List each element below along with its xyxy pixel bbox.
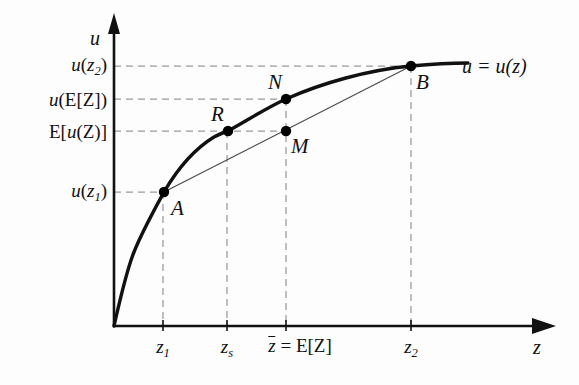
x-tick-label-zs: zs — [221, 337, 233, 359]
y-tick-label-u-EZ: u(E[Z]) — [0, 90, 107, 109]
curve-equation-label: u = u(z) — [462, 56, 527, 76]
y-tick-label-u-z2: u(z2) — [0, 55, 107, 77]
point-M — [281, 126, 291, 136]
point-label-B: B — [416, 72, 429, 93]
x-tick-label-z1: z1 — [156, 337, 170, 359]
point-label-N: N — [268, 72, 282, 93]
point-label-M: M — [291, 136, 309, 157]
y-tick-label-u-z1: u(z1) — [0, 181, 107, 203]
point-B — [406, 61, 416, 71]
utility-function-figure: u z u(z2) u(E[Z]) E[u(Z)] u(z1) z1 zs z … — [0, 0, 579, 385]
point-label-R: R — [211, 104, 224, 125]
x-axis-arrowhead — [532, 318, 556, 334]
y-tick-label-E-uZ: E[u(Z)] — [0, 122, 107, 141]
point-N — [281, 94, 291, 104]
x-tick-label-zbar: z = E[Z] — [268, 336, 332, 355]
point-R — [223, 126, 233, 136]
data-points — [159, 61, 416, 197]
y-axis-label: u — [90, 28, 100, 48]
point-label-A: A — [171, 198, 184, 219]
x-axis-label: z — [533, 337, 541, 357]
y-axis-arrowhead — [108, 13, 120, 34]
x-tick-label-z2: z2 — [404, 337, 418, 359]
guide-lines — [114, 66, 411, 326]
point-A — [159, 187, 169, 197]
